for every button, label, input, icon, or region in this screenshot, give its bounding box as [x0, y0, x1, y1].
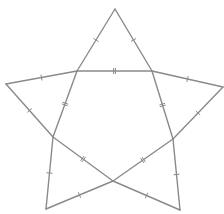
segment-inner_right-inner_bottom: [113, 139, 173, 181]
tick-mark: [47, 173, 52, 174]
tick-mark: [41, 75, 42, 80]
segment-inner_top_left-inner_left: [53, 71, 77, 137]
segment-inner_left-inner_bottom: [53, 137, 113, 181]
star-figure: [0, 0, 224, 214]
star-edges: [6, 9, 223, 210]
star-diagram: [0, 0, 224, 214]
congruence-tick-marks: [28, 39, 200, 198]
tick-mark: [187, 76, 188, 81]
segment-inner_top_right-inner_right: [152, 71, 173, 139]
tick-mark: [174, 174, 179, 175]
